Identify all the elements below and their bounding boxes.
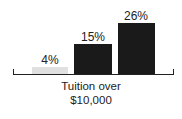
bar-15-percent (74, 44, 112, 74)
x-axis-line (13, 74, 174, 75)
data-label-15: 15% (73, 30, 113, 44)
x-axis-label-line2: $10,000 (50, 93, 132, 107)
x-axis-left-tick (13, 69, 14, 75)
bar-4-percent (32, 67, 68, 74)
x-axis-right-tick (173, 69, 174, 75)
bar-26-percent (118, 23, 155, 74)
bar-chart: 4% 15% 26% Tuition over $10,000 (0, 0, 182, 119)
x-axis-label: Tuition over $10,000 (50, 79, 132, 107)
data-label-26: 26% (116, 9, 156, 23)
x-axis-label-line1: Tuition over (50, 79, 132, 93)
data-label-4: 4% (30, 53, 70, 67)
